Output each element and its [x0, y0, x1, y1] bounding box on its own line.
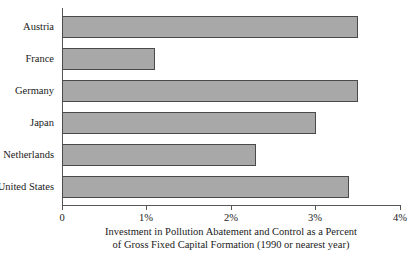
x-tick-label-2: 2% — [211, 211, 251, 224]
bar-japan — [62, 112, 316, 134]
bar-netherlands — [62, 144, 256, 166]
bar-germany — [62, 80, 358, 102]
chart-caption-line-1: Investment in Pollution Abatement and Co… — [62, 226, 400, 239]
chart-caption-line-2: of Gross Fixed Capital Formation (1990 o… — [62, 239, 400, 252]
category-label-japan: Japan — [0, 117, 54, 129]
x-tick-mark-2 — [231, 205, 232, 210]
x-tick-mark-4 — [400, 205, 401, 210]
category-label-germany: Germany — [0, 85, 54, 97]
x-tick-mark-3 — [315, 205, 316, 210]
bar-chart-figure: Austria France Germany Japan Netherlands… — [0, 0, 420, 253]
x-tick-label-1: 1% — [126, 211, 166, 224]
bar-united-states — [62, 176, 349, 198]
category-label-united-states: United States — [0, 181, 54, 193]
x-tick-label-0: 0 — [42, 211, 82, 224]
x-tick-label-3: 3% — [295, 211, 335, 224]
category-label-austria: Austria — [0, 21, 54, 33]
bar-austria — [62, 16, 358, 38]
x-tick-mark-0 — [62, 205, 63, 210]
x-tick-label-4: 4% — [380, 211, 420, 224]
category-label-netherlands: Netherlands — [0, 149, 54, 161]
x-tick-mark-1 — [146, 205, 147, 210]
bar-france — [62, 48, 155, 70]
chart-caption: Investment in Pollution Abatement and Co… — [62, 226, 400, 251]
category-label-france: France — [0, 53, 54, 65]
